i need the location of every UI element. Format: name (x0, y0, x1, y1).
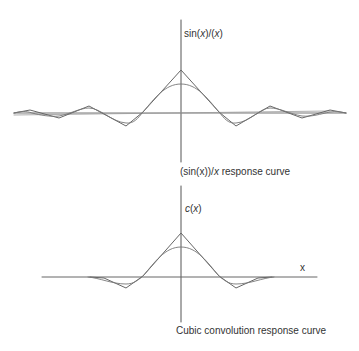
sinc-y-axis-label: sin(x)/(x) (184, 29, 223, 39)
cubic-plot (42, 186, 317, 322)
label-part: )/( (205, 28, 214, 39)
sinc-caption: (sin(x))/x response curve (180, 167, 290, 177)
label-part: response curve (219, 166, 290, 177)
sinc-plot (14, 20, 346, 162)
cubic-y-axis-label: c(x) (185, 204, 202, 214)
label-part: (sin(x))/ (180, 166, 214, 177)
cubic-caption: Cubic convolution response curve (176, 326, 326, 336)
sinc-smooth-curve (14, 84, 346, 123)
label-part: sin( (184, 28, 200, 39)
sinc-linear-approx (14, 70, 346, 126)
label-part: ) (198, 203, 201, 214)
label-part: ) (220, 28, 223, 39)
cubic-x-axis-label: x (300, 263, 305, 273)
